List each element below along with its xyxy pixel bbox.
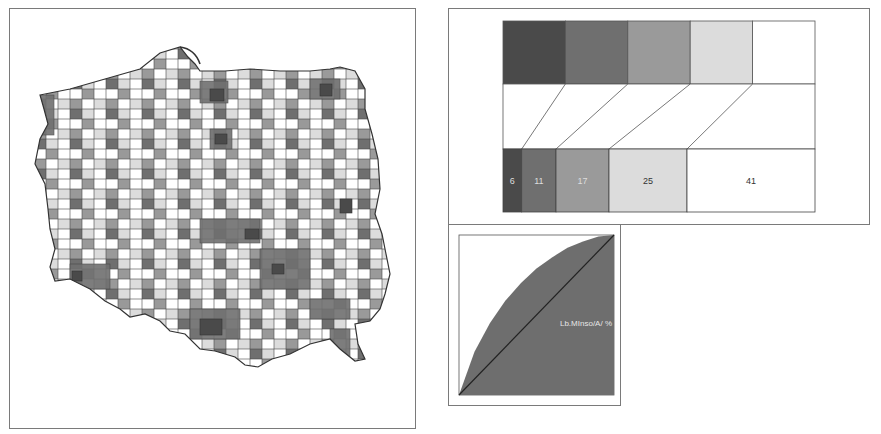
lorenz-curve-chart: Lb.MInso/A/ % xyxy=(449,225,620,405)
top-segment-2 xyxy=(565,21,627,84)
lorenz-annotation: Lb.MInso/A/ % xyxy=(560,319,612,328)
segment-label-3: 17 xyxy=(577,176,587,186)
choropleth-map-panel xyxy=(9,8,416,429)
segment-label-4: 25 xyxy=(643,176,653,186)
top-segment-1 xyxy=(503,21,565,84)
top-segment-5 xyxy=(753,21,815,84)
poland-choropleth-map xyxy=(10,9,415,428)
class-comparison-chart: 6 11 17 25 41 xyxy=(449,9,869,224)
segment-label-2: 11 xyxy=(534,176,543,186)
class-comparison-panel: 6 11 17 25 41 xyxy=(448,8,870,225)
connector-band xyxy=(503,84,815,149)
top-segment-4 xyxy=(690,21,752,84)
top-segment-3 xyxy=(628,21,690,84)
county-regions xyxy=(10,9,415,428)
bottom-share-bar xyxy=(503,149,815,212)
segment-label-1: 6 xyxy=(510,176,515,186)
lorenz-curve-panel: Lb.MInso/A/ % xyxy=(448,224,621,406)
segment-label-5: 41 xyxy=(746,176,756,186)
top-class-bar xyxy=(503,21,815,84)
